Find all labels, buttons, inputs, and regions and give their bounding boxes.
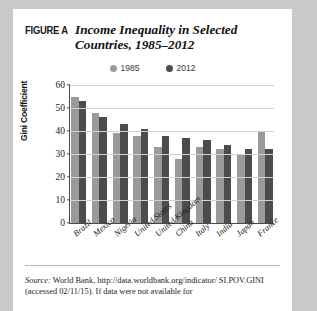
y-axis-tick-label: 30 — [56, 149, 66, 159]
y-axis-tick-mark — [67, 153, 70, 154]
source-divider — [25, 265, 280, 266]
bar-mexico-2012 — [99, 117, 107, 223]
gridline — [70, 108, 274, 109]
legend-swatch-1985 — [110, 65, 117, 72]
bar-brazil-1985 — [71, 97, 79, 224]
y-axis-tick-mark — [67, 199, 70, 200]
y-axis-tick-label: 60 — [56, 80, 66, 90]
source-note: Source: World Bank, http://data.worldban… — [25, 275, 282, 297]
legend-item-2012: 2012 — [166, 63, 196, 73]
gridline — [70, 200, 274, 201]
y-axis-tick-label: 10 — [56, 195, 66, 205]
y-axis-tick-label: 20 — [56, 172, 66, 182]
bar-japan-2012 — [245, 149, 253, 223]
y-axis-tick-label: 50 — [56, 103, 66, 113]
bar-india-1985 — [216, 149, 224, 223]
y-axis-tick-mark — [67, 222, 70, 223]
figure-title: Income Inequality in Selected Countries,… — [75, 23, 280, 52]
bar-mexico-1985 — [92, 113, 100, 223]
source-text: World Bank, http://data.worldbank.org/in… — [25, 276, 264, 296]
figure-card: FIGURE A Income Inequality in Selected C… — [13, 9, 292, 311]
y-axis-tick-mark — [67, 130, 70, 131]
legend-label-1985: 1985 — [121, 63, 140, 73]
gridline — [70, 131, 274, 132]
bar-nigeria-2012 — [120, 124, 128, 223]
y-axis-tick-mark — [67, 107, 70, 108]
legend-item-1985: 1985 — [110, 63, 140, 73]
figure-header: FIGURE A Income Inequality in Selected C… — [13, 9, 292, 52]
bar-nigeria-1985 — [113, 133, 121, 223]
bar-united-states-2012 — [141, 129, 149, 223]
y-axis-tick-mark — [67, 84, 70, 85]
bar-italy-1985 — [196, 147, 204, 223]
plot-region: 0102030405060 — [69, 85, 274, 224]
y-axis-tick-label: 40 — [56, 126, 66, 136]
bar-italy-2012 — [203, 140, 211, 223]
bar-united-states-1985 — [133, 136, 141, 223]
gridline — [70, 154, 274, 155]
y-axis-tick-mark — [67, 176, 70, 177]
gridline — [70, 177, 274, 178]
bar-japan-1985 — [237, 154, 245, 223]
bar-india-2012 — [224, 145, 232, 223]
gridline — [70, 85, 274, 86]
figure-label: FIGURE A — [25, 23, 64, 36]
chart-legend: 1985 2012 — [13, 63, 292, 73]
chart-area: Gini Coefficient 0102030405060 BrazilMex… — [13, 79, 292, 269]
y-axis-title: Gini Coefficient — [19, 81, 29, 141]
y-axis-tick-label: 0 — [60, 218, 65, 228]
legend-swatch-2012 — [166, 65, 173, 72]
bar-france-2012 — [265, 149, 273, 223]
bar-brazil-2012 — [79, 101, 87, 223]
source-prefix: Source: — [25, 276, 51, 285]
legend-label-2012: 2012 — [177, 63, 196, 73]
